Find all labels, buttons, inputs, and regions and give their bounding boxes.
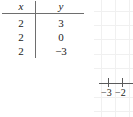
coordinate-grid: −3 −2 bbox=[94, 0, 133, 117]
table-cell-y: 0 bbox=[48, 32, 74, 43]
table-cell-y: 3 bbox=[48, 18, 74, 29]
table-header-y: y bbox=[48, 1, 74, 12]
table-header-rule bbox=[2, 13, 84, 14]
value-table: x y 2 3 2 0 2 −3 bbox=[0, 0, 88, 62]
x-axis-tick bbox=[122, 78, 123, 87]
gridline-vertical bbox=[115, 0, 116, 117]
table-cell-y: −3 bbox=[48, 46, 74, 57]
table-cell-x: 2 bbox=[12, 46, 30, 57]
gridline-vertical bbox=[101, 0, 102, 117]
gridline-horizontal bbox=[94, 111, 133, 112]
gridline-horizontal bbox=[94, 39, 133, 40]
table-cell-x: 2 bbox=[12, 32, 30, 43]
table-cell-x: 2 bbox=[12, 18, 30, 29]
x-axis-line bbox=[99, 83, 133, 84]
gridline-horizontal bbox=[94, 68, 133, 69]
gridline-horizontal bbox=[94, 25, 133, 26]
x-axis-tick bbox=[108, 78, 109, 87]
figure-root: x y 2 3 2 0 2 −3 −3 −2 bbox=[0, 0, 133, 117]
gridline-vertical bbox=[129, 0, 130, 117]
table-column-divider bbox=[35, 1, 36, 58]
x-axis-tick-label: −2 bbox=[115, 88, 126, 98]
gridline-horizontal bbox=[94, 97, 133, 98]
gridline-horizontal bbox=[94, 11, 133, 12]
gridline-horizontal bbox=[94, 54, 133, 55]
x-axis-tick-label: −3 bbox=[101, 88, 112, 98]
table-header-x: x bbox=[12, 1, 30, 12]
